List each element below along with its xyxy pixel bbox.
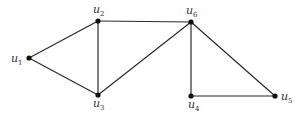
node-u5 <box>272 93 277 98</box>
edge-u3-u6 <box>98 22 191 95</box>
label-u4: u4 <box>188 98 200 113</box>
edges-group <box>29 21 275 96</box>
label-u3: u3 <box>93 97 105 112</box>
graph-diagram: u1u2u3u4u5u6 <box>0 0 302 114</box>
label-u5: u5 <box>281 90 293 105</box>
node-u6 <box>188 19 193 24</box>
edge-u6-u5 <box>191 22 275 96</box>
edge-u2-u6 <box>98 21 191 22</box>
edge-u1-u2 <box>29 21 98 58</box>
label-u6: u6 <box>186 4 198 19</box>
edge-u1-u3 <box>29 58 98 95</box>
label-u1: u1 <box>11 52 23 67</box>
node-u2 <box>95 18 100 23</box>
label-u2: u2 <box>93 3 105 18</box>
nodes-group <box>26 18 277 98</box>
node-u1 <box>26 55 31 60</box>
